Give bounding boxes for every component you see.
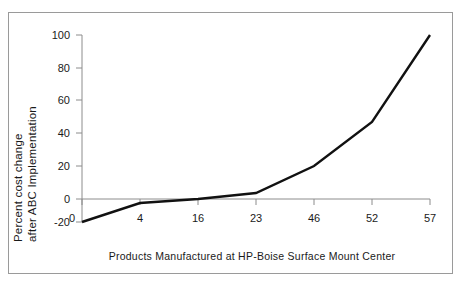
y-tick-label-60: 60	[46, 95, 70, 106]
data-series-line	[82, 35, 430, 222]
y-axis-ticks	[76, 35, 82, 222]
y-tick-label-80: 80	[46, 63, 70, 74]
x-tick-label-4: 4	[137, 213, 143, 224]
x-axis-title: Products Manufactured at HP-Boise Surfac…	[82, 250, 422, 262]
y-tick-label-minus20: -20	[40, 217, 70, 228]
x-tick-label-23: 23	[250, 213, 262, 224]
y-tick-label-20: 20	[46, 161, 70, 172]
x-tick-label-57: 57	[424, 213, 436, 224]
x-tick-label-52: 52	[366, 213, 378, 224]
y-tick-label-40: 40	[46, 128, 70, 139]
y-tick-label-100: 100	[46, 30, 70, 41]
x-tick-label-46: 46	[308, 213, 320, 224]
line-chart-plot	[0, 0, 462, 285]
x-tick-label-0: 0	[69, 213, 75, 224]
x-tick-label-16: 16	[192, 213, 204, 224]
y-tick-label-0: 0	[46, 194, 70, 205]
